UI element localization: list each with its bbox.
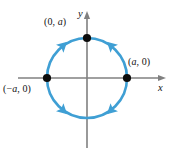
x-axis-label: x (158, 83, 163, 94)
x-axis-arrowhead-icon (158, 75, 166, 81)
point-label-left: (−a, 0) (3, 84, 31, 94)
figure-canvas (0, 0, 173, 151)
point-dot-top (83, 34, 91, 42)
axes-group (18, 11, 166, 148)
point-label-right: (a, 0) (128, 57, 150, 67)
y-axis-arrowhead-icon (84, 11, 90, 19)
math-figure: (0, a) (a, 0) (−a, 0) y x (0, 0, 173, 151)
point-label-top: (0, a) (44, 17, 66, 27)
point-dot-right (123, 74, 131, 82)
y-axis-label: y (78, 9, 83, 20)
point-dot-left (43, 74, 51, 82)
